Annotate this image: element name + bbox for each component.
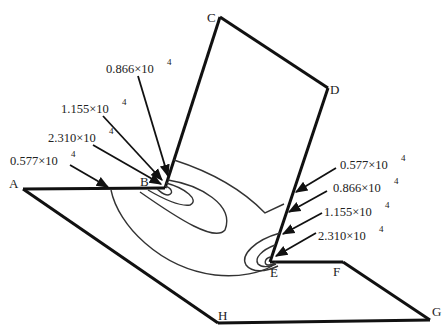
exponent: 4 [379, 224, 384, 234]
leader-left-0866 [138, 76, 168, 176]
mantissa: 0.577 [340, 158, 368, 172]
svg-text:0.866×10: 0.866×10 [106, 62, 154, 76]
times: ×10 [134, 62, 154, 76]
mantissa: 1.155 [324, 205, 352, 219]
times: ×10 [368, 158, 388, 172]
exponent: 4 [401, 153, 406, 163]
exponent: 4 [122, 97, 127, 107]
annotation-right-1155: 1.155×10 4 [324, 200, 390, 219]
exponent: 4 [71, 149, 76, 159]
times: ×10 [352, 205, 372, 219]
times: ×10 [89, 102, 109, 116]
point-label-h: H [218, 308, 227, 323]
exponent: 4 [167, 57, 172, 67]
plate-edge-b-c [165, 17, 220, 188]
leader-right-1155 [283, 213, 322, 234]
diagram-svg: A B C D E F G H 0.866×10 4 1.155×10 4 2.… [0, 0, 447, 335]
annotation-right-0577: 0.577×10 4 [340, 153, 406, 172]
mantissa: 2.310 [318, 229, 346, 243]
leader-right-0577 [296, 168, 336, 192]
plate-edge-c-d [220, 17, 328, 88]
leader-left-2310 [93, 145, 161, 184]
annotation-right-2310: 2.310×10 4 [318, 224, 384, 243]
leader-right-0866 [289, 191, 327, 212]
point-label-g: G [432, 304, 441, 319]
times: ×10 [361, 181, 381, 195]
point-label-a: A [9, 176, 19, 191]
times: ×10 [38, 154, 58, 168]
point-label-d: D [330, 82, 339, 97]
contour-0577 [111, 190, 272, 276]
annotation-left-2310: 2.310×10 4 [48, 126, 114, 145]
point-label-b: B [140, 174, 149, 189]
diagram-canvas: A B C D E F G H 0.866×10 4 1.155×10 4 2.… [0, 0, 447, 335]
svg-text:0.866×10: 0.866×10 [333, 181, 381, 195]
plate-edge-g-h [218, 320, 430, 323]
mantissa: 1.155 [61, 102, 89, 116]
point-label-e: E [270, 265, 278, 280]
times: ×10 [346, 229, 366, 243]
exponent: 4 [109, 126, 114, 136]
mantissa: 2.310 [48, 131, 76, 145]
annotation-left-1155: 1.155×10 4 [61, 97, 127, 116]
svg-text:2.310×10: 2.310×10 [48, 131, 96, 145]
mantissa: 0.577 [10, 154, 38, 168]
annotation-left-0866: 0.866×10 4 [106, 57, 172, 76]
mantissa: 0.866 [333, 181, 361, 195]
plate-edge-f-g [343, 262, 430, 320]
exponent: 4 [394, 176, 399, 186]
svg-text:0.577×10: 0.577×10 [10, 154, 58, 168]
svg-text:1.155×10: 1.155×10 [324, 205, 372, 219]
annotation-right-0866: 0.866×10 4 [333, 176, 399, 195]
svg-text:2.310×10: 2.310×10 [318, 229, 366, 243]
leader-right-2310 [276, 233, 316, 256]
times: ×10 [76, 131, 96, 145]
point-label-c: C [207, 10, 216, 25]
svg-text:1.155×10: 1.155×10 [61, 102, 109, 116]
plate-edge-h-a [23, 189, 218, 323]
svg-text:0.577×10: 0.577×10 [340, 158, 388, 172]
point-label-f: F [333, 264, 340, 279]
annotation-left-0577: 0.577×10 4 [10, 149, 76, 168]
exponent: 4 [385, 200, 390, 210]
mantissa: 0.866 [106, 62, 134, 76]
leader-left-0577 [70, 165, 108, 187]
